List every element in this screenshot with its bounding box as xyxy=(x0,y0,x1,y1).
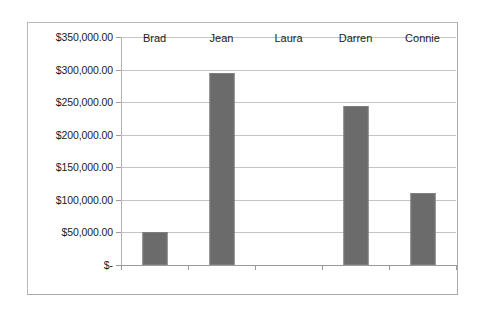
value-axis-label: $200,000.00 xyxy=(56,129,113,141)
bar-connie[interactable] xyxy=(410,193,435,265)
category-axis-line xyxy=(121,265,456,266)
category-label-connie: Connie xyxy=(405,32,440,44)
category-axis-tick xyxy=(389,265,390,270)
category-label-brad: Brad xyxy=(143,32,166,44)
bar-darren[interactable] xyxy=(343,106,368,265)
bar-jean[interactable] xyxy=(209,73,234,265)
category-axis-tick xyxy=(121,265,122,270)
category-axis-tick xyxy=(255,265,256,270)
category-label-darren: Darren xyxy=(339,32,373,44)
value-axis-label: $300,000.00 xyxy=(56,64,113,76)
bar-series xyxy=(121,37,456,265)
bar-slot xyxy=(389,37,456,265)
bar-slot xyxy=(255,37,322,265)
bar-slot xyxy=(322,37,389,265)
category-axis-tick xyxy=(322,265,323,270)
bar-brad[interactable] xyxy=(142,232,167,265)
bar-slot xyxy=(121,37,188,265)
value-axis-label: $350,000.00 xyxy=(56,31,113,43)
chart-frame: $-$50,000.00$100,000.00$150,000.00$200,0… xyxy=(27,22,458,295)
value-axis-label: $50,000.00 xyxy=(61,226,113,238)
value-axis-label: $250,000.00 xyxy=(56,96,113,108)
category-axis-tick xyxy=(188,265,189,270)
plot-area: $-$50,000.00$100,000.00$150,000.00$200,0… xyxy=(121,37,456,265)
value-axis-label: $- xyxy=(104,259,113,271)
bar-slot xyxy=(188,37,255,265)
value-axis-label: $100,000.00 xyxy=(56,194,113,206)
value-axis-label: $150,000.00 xyxy=(56,161,113,173)
category-label-laura: Laura xyxy=(274,32,302,44)
category-label-jean: Jean xyxy=(210,32,234,44)
category-axis-tick xyxy=(456,265,457,270)
